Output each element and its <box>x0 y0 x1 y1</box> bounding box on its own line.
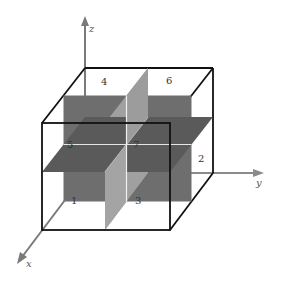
octant-label-1: 1 <box>71 195 77 206</box>
z-axis <box>81 16 89 100</box>
octant-label-4: 4 <box>101 76 107 87</box>
z-axis-arrow-icon <box>81 16 89 26</box>
octant-label-5: 5 <box>67 139 73 150</box>
octant-label-3: 3 <box>135 195 141 206</box>
y-axis-label: y <box>255 177 262 188</box>
x-axis <box>17 200 65 264</box>
octant-label-7: 7 <box>133 139 139 150</box>
x-axis-label: x <box>26 258 32 269</box>
figure-caption <box>0 275 281 282</box>
octant-label-2: 2 <box>198 153 204 164</box>
y-axis-arrow-icon <box>253 169 264 177</box>
z-axis-label: z <box>88 23 95 34</box>
octant-diagram: 4 6 5 7 2 1 3 z y x <box>0 0 281 282</box>
octant-label-6: 6 <box>166 75 172 86</box>
